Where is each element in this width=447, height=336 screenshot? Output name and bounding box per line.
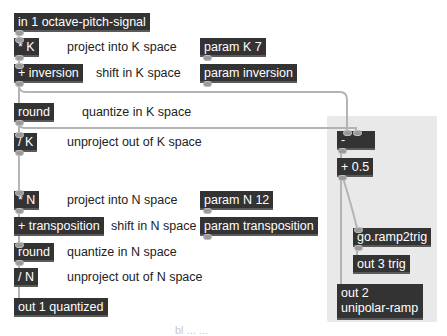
outlet-port[interactable] <box>203 234 212 240</box>
inlet-port[interactable] <box>15 242 24 248</box>
outlet-port[interactable] <box>15 260 24 266</box>
inlet-port[interactable] <box>343 130 352 136</box>
outlet-port[interactable] <box>15 120 24 126</box>
out-ramp-object[interactable]: out 2 unipolar-ramp <box>337 284 423 320</box>
inlet-port[interactable] <box>353 130 362 136</box>
outlet-port[interactable] <box>203 208 212 214</box>
comment-project-k: project into K space <box>67 38 177 57</box>
inlet-port[interactable] <box>354 227 363 233</box>
out-ramp-line2: unipolar-ramp <box>341 301 419 316</box>
outlet-port[interactable] <box>15 30 24 36</box>
comment-shift-n: shift in N space <box>111 217 196 236</box>
footer-text: bl ... ... <box>175 324 208 336</box>
inlet-port[interactable] <box>15 63 24 69</box>
ramp2trig-object[interactable]: go.ramp2trig <box>353 228 431 247</box>
inlet-object[interactable]: in 1 octave-pitch-signal <box>14 13 150 32</box>
outlet-port[interactable] <box>338 148 347 154</box>
add-transposition-object[interactable]: + transposition <box>14 217 104 236</box>
inlet-port[interactable] <box>15 132 24 138</box>
param-inversion-object[interactable]: param inversion <box>200 64 297 83</box>
outlet-port[interactable] <box>15 208 24 214</box>
out-trig-object[interactable]: out 3 trig <box>353 255 410 274</box>
comment-project-n: project into N space <box>67 191 177 210</box>
comment-quantize-n: quantize in N space <box>67 243 177 262</box>
outlet-port[interactable] <box>15 81 24 87</box>
out-ramp-line1: out 2 <box>341 286 419 301</box>
comment-quantize-k: quantize in K space <box>82 103 191 122</box>
outlet-port[interactable] <box>203 55 212 61</box>
add-inversion-object[interactable]: + inversion <box>14 64 83 83</box>
param-transposition-object[interactable]: param transposition <box>200 217 318 236</box>
cord[interactable] <box>343 178 357 228</box>
inlet-port[interactable] <box>15 37 24 43</box>
inlet-port[interactable] <box>15 190 24 196</box>
cord[interactable] <box>19 124 356 131</box>
outlet-port[interactable] <box>15 55 24 61</box>
outlet-port[interactable] <box>203 81 212 87</box>
comment-unproject-n: unproject out of N space <box>67 268 203 287</box>
divide-n-object[interactable]: / N <box>14 268 38 287</box>
comment-shift-k: shift in K space <box>96 64 181 83</box>
outlet-port[interactable] <box>338 175 347 181</box>
comment-unproject-k: unproject out of K space <box>67 133 202 152</box>
param-n-object[interactable]: param N 12 <box>200 191 273 210</box>
outlet-port[interactable] <box>354 245 363 251</box>
out-quantized-object[interactable]: out 1 quantized <box>14 298 108 317</box>
outlet-port[interactable] <box>15 150 24 156</box>
